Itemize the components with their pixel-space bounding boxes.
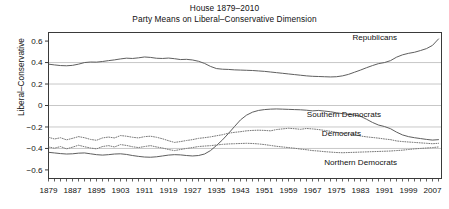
annotation-northern-democrats: Northern Democrats [324,158,397,167]
y-axis-tick-label: −0.2 [27,123,43,132]
x-axis-tick-label: 1935 [207,186,226,195]
chart-figure: House 1879–2010 Party Means on Liberal–C… [0,0,449,209]
x-axis-tick-label: 1879 [39,186,58,195]
x-axis-tick-label: 1991 [375,186,394,195]
y-axis-tick-label: −0.6 [27,166,43,175]
x-axis-tick-label: 1887 [63,186,82,195]
y-axis-tick-label: 0.6 [31,37,43,46]
x-axis-tick-label: 1983 [351,186,370,195]
series-line-northern-democrats [49,143,439,152]
annotation-southern-democrats: Southern Democrats [307,110,381,119]
x-axis-tick-label: 1903 [111,186,130,195]
x-axis-tick-label: 1951 [255,186,274,195]
y-axis-tick-label: 0.2 [31,80,43,89]
x-axis-tick-label: 1967 [303,186,322,195]
x-axis-tick-label: 1911 [136,186,154,195]
y-axis-tick-label: 0.4 [31,58,43,67]
x-axis-tick-label: 1943 [231,186,250,195]
annotation-republicans: Republicans [352,33,397,42]
series-line-democrats [49,128,439,143]
annotation-democrats: Democrats [322,129,361,138]
y-axis-tick-label: −0.4 [27,144,43,153]
x-axis-tick-label: 2007 [423,186,442,195]
x-axis-tick-label: 1919 [159,186,178,195]
x-axis-tick-label: 1975 [327,186,346,195]
y-axis-tick-label: 0 [38,101,43,110]
plot-canvas: 0.60.40.20−0.2−0.4−0.6187918871895190319… [0,0,449,209]
x-axis-tick-label: 1999 [399,186,418,195]
series-line-republicans [49,39,439,77]
x-axis-tick-label: 1895 [87,186,106,195]
x-axis-tick-label: 1959 [279,186,298,195]
x-axis-tick-label: 1927 [183,186,202,195]
